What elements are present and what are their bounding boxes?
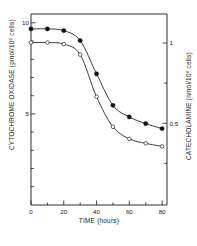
x-tick-label-60: 60 [126,208,133,215]
y-right-title-end: cells) [185,52,193,70]
series-1-point-0 [29,27,33,31]
x-axis-tick-labels: 0 20 40 60 80 [29,208,166,215]
y-tick-label-5: 5 [26,110,30,117]
series-1-point-60 [127,115,131,119]
y-right-axis-title: CATECHOLAMINE (nmol/106 cells) [185,52,193,160]
series-1-point-70 [144,122,148,126]
x-tick-label-40: 40 [93,208,100,215]
y-left-title-end: cells) [8,19,16,37]
x-axis-title-text: TIME (hours) [79,217,119,225]
series-2-point-10 [46,41,50,45]
y-left-title-main: CYTOCHROME OXIDASE (pmol/10 [8,40,16,150]
y2-tick-label-0-5: 0.5 [170,120,179,127]
series-2-point-40 [95,95,99,99]
y2-tick-label-1: 1 [170,39,174,46]
y-left-major-ticks [31,23,36,114]
y-tick-label-10: 10 [22,19,29,26]
series-1-point-20 [62,29,66,33]
y-right-tick-labels: 1 0.5 [170,39,179,126]
x-tick-label-80: 80 [159,208,166,215]
chart-svg: 0 20 40 60 80 TIME (hours) 10 [0,0,197,246]
x-axis-major-ticks [31,201,162,206]
series-2-point-30 [78,53,82,57]
series-1-point-10 [45,27,49,31]
y-right-title-main: CATECHOLAMINE (nmol/10 [185,73,193,160]
y-left-tick-labels: 10 5 [22,19,29,117]
series-2-point-0 [29,41,33,45]
series-2-point-60 [128,137,132,141]
series-2-point-80 [160,145,164,149]
x-axis-title: TIME (hours) [79,217,119,225]
x-tick-label-0: 0 [29,208,33,215]
series-2-point-70 [144,142,148,146]
series-2-point-50 [111,125,115,129]
series-2-point-20 [62,42,66,46]
series-2-curve [31,42,162,146]
x-tick-label-20: 20 [60,208,67,215]
data-series-layer [29,27,164,148]
series-1-point-30 [78,38,82,42]
series-1-point-40 [94,72,98,76]
series-1-curve [31,29,162,129]
y-left-axis-title-text: CYTOCHROME OXIDASE (pmol/106 cells) [8,19,16,150]
series-2 [29,41,164,148]
y-left-axis-title: CYTOCHROME OXIDASE (pmol/106 cells) [8,19,16,150]
series-1-point-50 [111,103,115,107]
figure-container: 0 20 40 60 80 TIME (hours) 10 [0,0,197,246]
y-right-axis-title-text: CATECHOLAMINE (nmol/106 cells) [185,52,193,160]
series-1-point-80 [160,127,164,131]
